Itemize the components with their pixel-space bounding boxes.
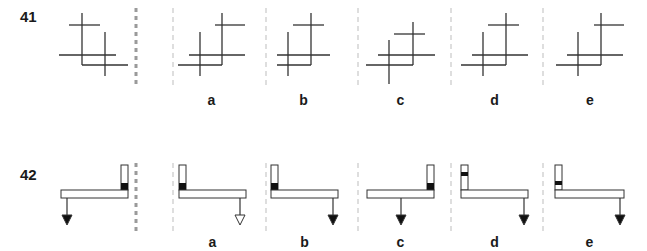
option-label-b[interactable]: b — [300, 234, 309, 250]
figure-q42-a[interactable] — [179, 165, 246, 225]
beam-rect — [179, 190, 246, 198]
figure-q41-b[interactable] — [277, 13, 330, 76]
beam-rect — [367, 190, 434, 198]
arrow-down-filled-icon — [396, 215, 406, 225]
arrow-down-filled-icon — [615, 215, 625, 225]
black-mark — [179, 183, 186, 190]
figure-q41-e[interactable] — [556, 13, 624, 76]
black-mark — [121, 183, 128, 190]
figure-q42-c[interactable] — [367, 165, 434, 225]
beam-rect — [61, 190, 128, 198]
figure-q42-e[interactable] — [555, 165, 625, 225]
option-label-a[interactable]: a — [209, 234, 217, 250]
arrow-down-filled-icon — [519, 215, 529, 225]
arrow-down-filled-icon — [62, 215, 72, 225]
beam-rect — [555, 190, 624, 198]
black-mark — [427, 183, 434, 190]
figure-q42-b[interactable] — [271, 165, 338, 225]
question-number-41: 41 — [20, 8, 37, 25]
question-number-42: 42 — [20, 166, 37, 183]
option-label-b[interactable]: b — [299, 92, 308, 108]
post-rect — [461, 165, 468, 190]
figure-q42-original — [61, 165, 128, 225]
black-mark — [555, 181, 562, 185]
figure-q41-d[interactable] — [461, 13, 528, 76]
black-mark — [461, 172, 468, 176]
figure-q41-c[interactable] — [366, 22, 435, 84]
figure-q41-a[interactable] — [178, 13, 245, 76]
figure-q41-original — [59, 13, 128, 76]
option-label-d[interactable]: d — [490, 234, 499, 250]
option-label-d[interactable]: d — [490, 92, 499, 108]
arrow-down-filled-icon — [328, 215, 338, 225]
option-label-e[interactable]: e — [586, 234, 594, 250]
figures-canvas — [0, 0, 647, 251]
black-mark — [271, 183, 278, 190]
option-label-c[interactable]: c — [397, 92, 405, 108]
beam-rect — [271, 190, 338, 198]
beam-rect — [461, 190, 528, 198]
arrow-down-hollow-icon — [235, 215, 245, 225]
option-label-c[interactable]: c — [397, 234, 405, 250]
figure-q42-d[interactable] — [461, 165, 529, 225]
post-rect — [555, 165, 562, 190]
option-label-a[interactable]: a — [208, 92, 216, 108]
option-label-e[interactable]: e — [586, 92, 594, 108]
